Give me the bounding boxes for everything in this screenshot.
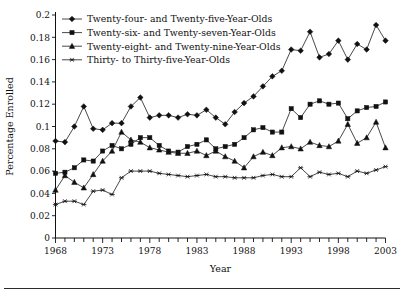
series-1-marker bbox=[383, 100, 387, 104]
series-0-marker bbox=[53, 138, 59, 144]
series-1-marker bbox=[327, 102, 331, 106]
series-2-marker bbox=[307, 139, 312, 144]
series-0-marker bbox=[100, 127, 106, 133]
x-tick-label: 1968 bbox=[44, 246, 67, 256]
y-tick-label: 0.2 bbox=[36, 10, 50, 20]
bottom-divider bbox=[4, 288, 400, 289]
series-1-marker bbox=[195, 142, 199, 146]
series-2-marker bbox=[128, 137, 133, 142]
x-tick-label: 1978 bbox=[138, 246, 161, 256]
series-1-marker bbox=[148, 136, 152, 140]
series-1-marker bbox=[355, 109, 359, 113]
y-tick-label: 0.14 bbox=[30, 77, 50, 87]
series-2-marker bbox=[194, 148, 199, 153]
series-0-marker bbox=[317, 55, 323, 61]
series-2-marker bbox=[204, 153, 209, 158]
series-2-marker bbox=[373, 119, 378, 124]
series-0-marker bbox=[307, 29, 313, 35]
x-tick-label: 1998 bbox=[327, 246, 350, 256]
y-tick-label: 0.02 bbox=[30, 211, 50, 221]
series-2-marker bbox=[147, 145, 152, 150]
series-2-marker bbox=[289, 144, 294, 149]
x-tick-label: 2003 bbox=[374, 246, 397, 256]
legend-marker-0 bbox=[69, 16, 75, 22]
series-0-marker bbox=[175, 115, 181, 121]
series-1-marker bbox=[365, 105, 369, 109]
series-2-marker bbox=[345, 121, 350, 126]
series-1-marker bbox=[280, 130, 284, 134]
series-2-marker bbox=[355, 140, 360, 145]
series-0-marker bbox=[166, 113, 172, 119]
series-1-marker bbox=[72, 166, 76, 170]
y-tick-label: 0.12 bbox=[30, 99, 50, 109]
series-0-marker bbox=[383, 38, 389, 44]
series-line-2 bbox=[56, 122, 386, 190]
x-tick-label: 1993 bbox=[280, 246, 303, 256]
series-0-marker bbox=[336, 38, 342, 44]
series-0-marker bbox=[364, 47, 370, 53]
x-tick-label: 1983 bbox=[185, 246, 208, 256]
series-1-marker bbox=[204, 138, 208, 142]
series-0-marker bbox=[72, 124, 78, 130]
series-1-marker bbox=[53, 171, 57, 175]
series-1-marker bbox=[374, 104, 378, 108]
series-0-marker bbox=[373, 22, 379, 28]
x-tick-label: 1973 bbox=[91, 246, 114, 256]
series-1-marker bbox=[299, 115, 303, 119]
series-2-marker bbox=[232, 158, 237, 163]
legend-marker-1 bbox=[70, 31, 74, 35]
series-1-marker bbox=[289, 107, 293, 111]
series-2-marker bbox=[260, 149, 265, 154]
y-tick-label: 0.18 bbox=[30, 33, 50, 43]
series-0-marker bbox=[156, 113, 162, 119]
series-2-marker bbox=[383, 145, 388, 150]
series-2-marker bbox=[53, 187, 58, 192]
legend-label-0: Twenty-four- and Twenty-five-Year-Olds bbox=[87, 13, 272, 24]
series-1-marker bbox=[270, 130, 274, 134]
series-0-marker bbox=[119, 120, 125, 126]
series-1-marker bbox=[82, 158, 86, 162]
series-0-marker bbox=[147, 115, 153, 121]
series-1-marker bbox=[101, 149, 105, 153]
series-0-marker bbox=[288, 47, 294, 53]
y-tick-label: 0.06 bbox=[30, 166, 50, 176]
series-1-marker bbox=[129, 142, 133, 146]
series-0-marker bbox=[279, 68, 285, 74]
series-1-marker bbox=[110, 143, 114, 147]
series-1-marker bbox=[251, 128, 255, 132]
series-0-marker bbox=[298, 48, 304, 54]
series-1-marker bbox=[336, 101, 340, 105]
series-2-marker bbox=[119, 129, 124, 134]
series-0-marker bbox=[81, 104, 87, 110]
legend-label-3: Thirty- to Thirty-five-Year-Olds bbox=[87, 54, 230, 65]
series-0-marker bbox=[326, 51, 332, 57]
series-0-marker bbox=[62, 139, 68, 145]
series-0-marker bbox=[345, 57, 351, 63]
series-2-marker bbox=[109, 148, 114, 153]
legend-label-1: Twenty-six- and Twenty-seven-Year-Olds bbox=[87, 27, 276, 38]
x-axis-label: Year bbox=[209, 263, 232, 274]
series-0-marker bbox=[90, 126, 96, 132]
series-2-marker bbox=[72, 179, 77, 184]
series-1-marker bbox=[91, 159, 95, 163]
chart-figure: 00.020.040.060.080.10.120.140.160.180.21… bbox=[0, 0, 404, 296]
series-0-marker bbox=[354, 41, 360, 47]
y-tick-label: 0.1 bbox=[36, 122, 50, 132]
series-2-marker bbox=[223, 154, 228, 159]
y-tick-label: 0.08 bbox=[30, 144, 50, 154]
series-1-marker bbox=[308, 102, 312, 106]
series-1-marker bbox=[185, 144, 189, 148]
series-0-marker bbox=[194, 113, 200, 119]
series-2-marker bbox=[251, 154, 256, 159]
series-1-marker bbox=[119, 147, 123, 151]
x-tick-label: 1988 bbox=[233, 246, 256, 256]
line-chart: 00.020.040.060.080.10.120.140.160.180.21… bbox=[0, 0, 404, 296]
y-tick-label: 0.16 bbox=[30, 55, 50, 65]
legend-label-2: Twenty-eight- and Twenty-nine-Year-Olds bbox=[87, 41, 281, 52]
series-line-3 bbox=[56, 167, 386, 205]
series-0-marker bbox=[109, 120, 115, 126]
series-1-marker bbox=[346, 117, 350, 121]
series-1-marker bbox=[261, 126, 265, 130]
series-2-marker bbox=[364, 135, 369, 140]
series-2-marker bbox=[336, 138, 341, 143]
